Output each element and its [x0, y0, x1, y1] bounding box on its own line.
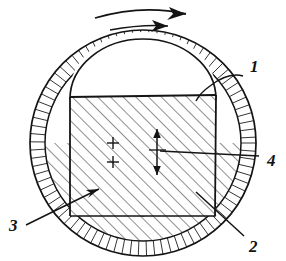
callout-label-4: 4 [266, 151, 276, 170]
technical-drawing-figure: 1 2 3 4 [0, 0, 286, 261]
callout-label-1: 1 [250, 57, 259, 76]
callout-label-2: 2 [248, 237, 258, 256]
callout-label-3: 3 [8, 216, 18, 235]
core-right-edge [215, 95, 216, 216]
cross-section-drawing-canvas: 1 2 3 4 [0, 0, 286, 261]
core-body [64, 90, 224, 224]
core-body-hatching [64, 90, 224, 224]
